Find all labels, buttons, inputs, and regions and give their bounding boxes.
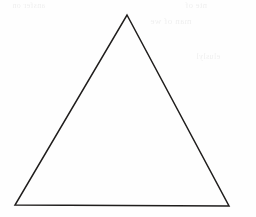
figure-canvas: ansfer on nte of man of we eluslyl Hand-… [0,0,256,217]
triangle-drawing-svg [0,0,256,217]
triangle-outline [15,15,229,206]
